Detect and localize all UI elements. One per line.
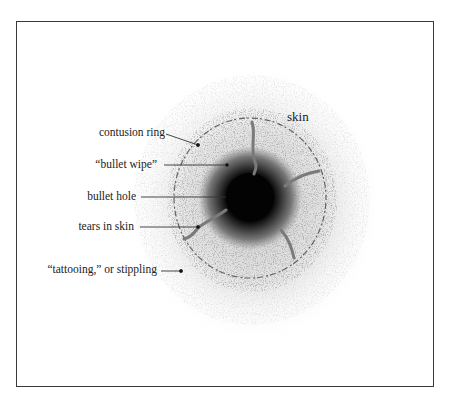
label-tears-in-skin: tears in skin [78, 221, 134, 233]
label-tattooing: “tattooing,” or stippling [47, 264, 157, 276]
skin-label: skin [287, 110, 309, 123]
label-contusion-ring: contusion ring [99, 127, 165, 139]
label-bullet-hole: bullet hole [87, 191, 136, 203]
label-bullet-wipe: “bullet wipe” [95, 159, 157, 171]
wound-illustration [0, 0, 451, 405]
bullet-hole [226, 173, 274, 221]
